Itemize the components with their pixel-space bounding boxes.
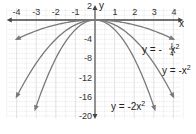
x-tick-label: 3 [152,7,157,17]
x-tick-label: -2 [52,7,60,17]
chart-canvas: -4-3-2-112342-4-8-12-16-20 y = - x2 1 4 … [0,0,196,134]
y-tick-label: -12 [79,73,92,83]
x-tick-label: -4 [13,7,21,17]
y-axis-label: y [99,0,104,11]
y-tick-label: -4 [84,34,92,44]
label-frac-num: 1 [170,41,174,49]
x-tick-label: 1 [113,7,118,17]
y-tick-label: -20 [79,111,92,121]
label-x2: y = -x2 [162,64,191,76]
y-tick-label: 2 [87,1,92,11]
x-tick-label: -3 [32,7,40,17]
label-frac-den: 4 [170,50,174,58]
y-tick-label: -16 [79,92,92,102]
y-axis-arrow-down-icon [93,114,98,119]
x-axis-arrow-left-icon [7,18,12,23]
x-tick-label: -1 [71,7,79,17]
axes [7,5,184,119]
x-tick-label: 2 [132,7,137,17]
y-tick-label: -8 [84,53,92,63]
x-axis-label: x [179,18,184,29]
x-tick-label: 4 [171,7,176,17]
y-axis-arrow-up-icon [93,5,98,10]
label-2x2: y = -2x2 [111,100,145,112]
parabola-graph: -4-3-2-112342-4-8-12-16-20 y = - x2 1 4 … [0,0,196,134]
